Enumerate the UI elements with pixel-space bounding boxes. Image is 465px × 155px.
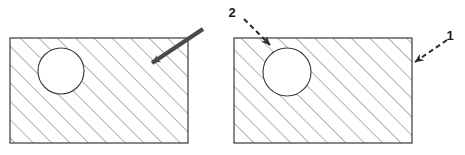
callout-arrow-1: 1 xyxy=(415,28,454,62)
diagram-svg: 2 1 xyxy=(0,0,465,155)
left-rect-hatch-fill xyxy=(10,38,188,143)
right-rect-hatch-fill xyxy=(234,38,412,143)
right-hatched-rectangle-panel xyxy=(234,38,412,143)
callout-1-label: 1 xyxy=(446,28,453,43)
callout-1-leader-line xyxy=(415,40,447,62)
figure-canvas: 2 1 xyxy=(0,0,465,155)
callout-2-label: 2 xyxy=(228,5,235,20)
left-hatched-rectangle-panel xyxy=(10,38,188,143)
